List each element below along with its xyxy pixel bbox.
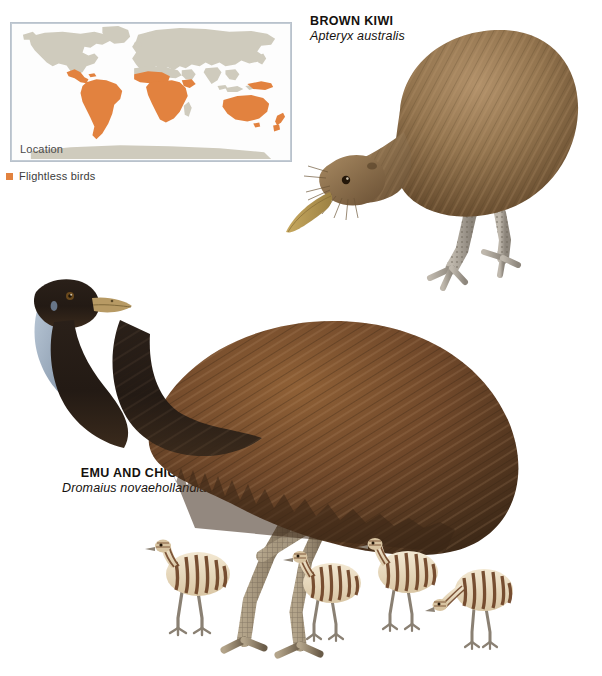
chick-legs [383,590,419,631]
kiwi-right-foot [484,252,518,275]
chick-body [303,563,361,603]
emu-common-name: EMU AND CHICKS [62,466,214,481]
kiwi-legs [430,213,518,288]
chick-legs [170,592,210,635]
emu-eye-highlight [70,294,72,296]
chick-stripes [312,565,358,601]
chick-neck [439,584,464,609]
kiwi-ear [367,162,377,169]
emu-pupil [68,294,72,298]
kiwi-neck-texture [334,132,412,203]
emu-legs [224,500,352,662]
location-map: Location [10,22,292,162]
emu-bill [92,297,132,312]
emu-head [34,279,99,328]
kiwi-left-foot [430,268,465,288]
chick-bill [283,558,293,562]
legend-label: Flightless birds [19,170,96,182]
emu-neck [113,320,263,456]
chick-bill [358,545,368,549]
kiwi-eye-highlight [346,177,349,180]
kiwi-bill [286,192,332,232]
kiwi-caption: BROWN KIWI Apteryx australis [310,14,405,45]
chick-eye [372,542,375,545]
kiwi-whiskers [304,166,358,220]
emu-neck-patch [35,298,70,398]
kiwi-eye [342,176,350,184]
chick-body [455,569,513,611]
chick-stripes [464,571,511,609]
kiwi-bill-line [288,196,331,232]
chick-eye [159,543,162,546]
chick-neck [374,541,389,566]
emu-chick [145,540,230,636]
chick-bill [145,547,155,551]
emu-nostril [111,300,114,303]
emu-eye [66,292,74,300]
legend-swatch-icon [6,173,13,180]
emu-body [149,321,519,555]
kiwi-body [395,30,578,217]
chick-bill [425,607,435,612]
chick-body [166,552,230,596]
chick-neck [299,554,314,578]
chick-body [378,551,438,593]
chick-head [155,540,171,553]
emu-chick [358,538,438,631]
emu-caption: EMU AND CHICKS Dromaius novaehollandiae [62,466,214,497]
emu-neck-texture [113,320,263,456]
emu-upper-neck [51,320,128,448]
kiwi-head [319,155,385,206]
chick-neck [162,543,178,568]
chick-eye [438,603,441,606]
chick-legs [465,608,497,649]
brown-kiwi-illustration [286,30,578,288]
chick-eye [297,555,300,558]
chick-stripes [176,555,226,594]
chick-head [368,538,383,550]
emu-bill-line [93,305,131,307]
kiwi-scientific-name: Apteryx australis [310,29,405,45]
chick-head [293,551,308,563]
illustration-plate: Location Flightless birds BROWN KIWI Apt… [0,0,602,676]
emu-left-foot [224,640,264,658]
kiwi-neck [334,132,412,203]
kiwi-common-name: BROWN KIWI [310,14,405,29]
emu-body-texture [149,321,519,555]
emu-chick [283,551,361,641]
chick-head [433,599,448,611]
map-legend: Flightless birds [6,170,96,182]
chick-legs [307,600,343,641]
world-map-svg [11,23,291,161]
emu-chick [425,569,513,649]
chick-stripes [387,553,435,591]
map-title: Location [20,143,63,155]
emu-scientific-name: Dromaius novaehollandiae [62,481,214,497]
emu-right-foot [278,645,320,662]
kiwi-body-texture [395,30,578,217]
emu-ear [51,301,58,311]
